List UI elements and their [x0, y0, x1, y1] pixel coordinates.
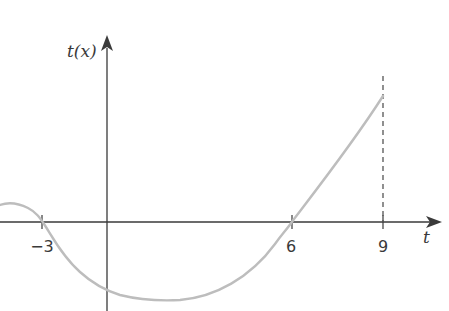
x-axis-label: t: [423, 227, 430, 247]
x-tick-label-6: 6: [286, 237, 296, 256]
y-axis-label: t(x): [67, 41, 97, 61]
x-tick-label-neg3: −3: [30, 237, 54, 256]
chart: t(x) t −3 6 9: [0, 0, 449, 311]
function-curve: [0, 96, 383, 300]
x-tick-label-9: 9: [378, 237, 388, 256]
y-axis: [101, 35, 113, 311]
x-axis: [0, 216, 442, 228]
